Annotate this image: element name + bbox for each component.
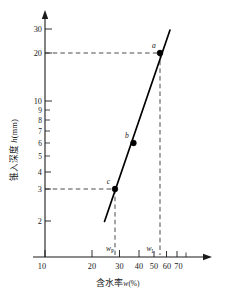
x-tick-label-60: 60 <box>163 262 171 271</box>
x-tick-label-30: 30 <box>115 262 123 271</box>
y-tick-label-8: 8 <box>38 116 42 125</box>
data-point-label-a: a <box>152 41 156 50</box>
y-axis-title-unit: (mm) <box>9 119 19 138</box>
data-point-label-b: b <box>125 131 129 140</box>
data-point-a[interactable] <box>157 50 163 56</box>
x-axis-title: 含水率w(%) <box>96 277 140 288</box>
data-point-c[interactable] <box>112 186 118 192</box>
x-axis-arrow <box>203 254 212 260</box>
x-tick-label-40: 40 <box>135 262 143 271</box>
chart-container: 30 20 10 9 8 7 6 5 4 3 2 10 20 30 <box>0 0 230 297</box>
wL-subscript: L <box>151 248 154 254</box>
x-tick-label-10: 10 <box>38 262 46 271</box>
wP-subscript: P <box>111 248 114 254</box>
x-axis-title-unit: (%) <box>128 279 140 288</box>
y-tick-label-20: 20 <box>34 49 42 58</box>
x-axis-title-text: 含水率 <box>96 277 123 288</box>
y-tick-label-7: 7 <box>38 127 42 136</box>
data-point-labels: a b c <box>107 41 156 186</box>
x-ticks <box>45 250 186 257</box>
y-tick-label-6: 6 <box>38 139 42 148</box>
x-tick-labels: 10 20 30 40 50 60 70 <box>38 262 183 271</box>
y-tick-label-30: 30 <box>34 25 42 34</box>
y-tick-label-2: 2 <box>38 217 42 226</box>
x-tick-label-50: 50 <box>150 262 158 271</box>
cone-penetration-chart: 30 20 10 9 8 7 6 5 4 3 2 10 20 30 <box>0 0 230 297</box>
liquid-limit-label: wL <box>146 244 154 254</box>
y-axis-arrow <box>42 10 48 19</box>
data-point-b[interactable] <box>131 140 137 146</box>
x-tick-label-20: 20 <box>88 262 96 271</box>
data-point-label-c: c <box>107 177 111 186</box>
limit-annotations: wP wL <box>106 244 154 254</box>
y-axis-title-text: 锥入深度 <box>8 143 19 181</box>
y-ticks <box>45 29 52 221</box>
plastic-limit-label: wP <box>106 244 114 254</box>
y-tick-label-9: 9 <box>38 106 42 115</box>
x-tick-label-70: 70 <box>174 262 182 271</box>
y-tick-label-3: 3 <box>38 185 42 194</box>
axes-group <box>33 10 212 260</box>
y-tick-label-5: 5 <box>38 152 42 161</box>
y-axis-title: 锥入深度 h(mm) <box>8 119 19 181</box>
y-tick-labels: 30 20 10 9 8 7 6 5 4 3 2 <box>34 25 43 226</box>
guide-lines <box>45 53 160 255</box>
y-tick-label-4: 4 <box>38 168 43 177</box>
